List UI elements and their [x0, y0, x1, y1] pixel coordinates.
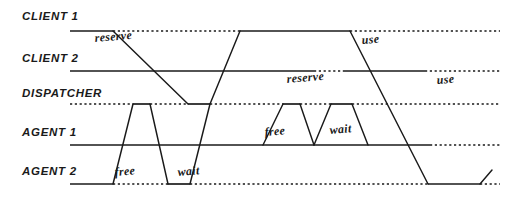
timing-diagram: CLIENT 1CLIENT 2DISPATCHERAGENT 1AGENT 2…: [0, 0, 517, 203]
event-label-use-client2: use: [436, 71, 455, 87]
lane-label-client1: CLIENT 1: [22, 10, 79, 22]
lane-label-agent2: AGENT 2: [21, 165, 77, 177]
transition-lines-group: [113, 31, 492, 184]
lane-label-client2: CLIENT 2: [22, 52, 79, 64]
state-lines-group: [70, 31, 500, 184]
event-label-free-agent1: free: [264, 123, 286, 139]
t-use-c1-down: [350, 31, 428, 184]
t-a1-wait-down: [352, 104, 368, 145]
t-a2-final-up: [480, 170, 492, 184]
event-label-use-client1: use: [361, 31, 380, 47]
event-label-free-agent2: free: [114, 163, 136, 179]
timing-diagram-canvas: CLIENT 1CLIENT 2DISPATCHERAGENT 1AGENT 2…: [0, 0, 517, 203]
event-label-reserve-client2: reserve: [286, 69, 325, 86]
event-label-wait-agent2: wait: [177, 163, 200, 179]
t-a1-free-down: [300, 104, 314, 145]
lane-label-agent1: AGENT 1: [21, 126, 77, 138]
t-a2-free-down: [150, 104, 168, 184]
event-label-reserve-client1: reserve: [94, 28, 133, 45]
lane-labels-group: CLIENT 1CLIENT 2DISPATCHERAGENT 1AGENT 2: [21, 10, 102, 177]
event-label-wait-agent1: wait: [329, 121, 352, 137]
t-disp-rise-to-c2: [210, 31, 240, 104]
lane-label-dispatcher: DISPATCHER: [22, 87, 102, 99]
